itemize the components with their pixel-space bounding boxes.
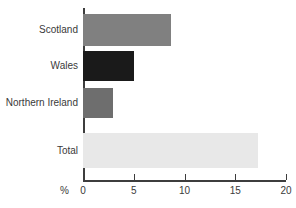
- bar-chart: ScotlandWalesNorthern IrelandTotal 05101…: [0, 0, 296, 208]
- x-tick-mark-10: [185, 174, 186, 180]
- bar-scotland: [83, 14, 171, 46]
- x-axis-line: [83, 180, 286, 182]
- x-tick-mark-5: [134, 174, 135, 180]
- bar-northern-ireland: [83, 88, 113, 118]
- x-tick-label-0: 0: [70, 185, 96, 196]
- x-tick-label-5: 5: [121, 185, 147, 196]
- category-label-scotland: Scotland: [39, 24, 78, 35]
- x-tick-mark-15: [235, 174, 236, 180]
- x-tick-label-15: 15: [222, 185, 248, 196]
- x-axis-unit-label: %: [60, 185, 69, 196]
- category-label-total: Total: [57, 145, 78, 156]
- x-tick-label-20: 20: [273, 185, 296, 196]
- category-label-wales: Wales: [51, 60, 78, 71]
- category-label-northern-ireland: Northern Ireland: [6, 97, 78, 108]
- x-tick-mark-20: [286, 174, 287, 180]
- bar-total: [83, 133, 258, 168]
- x-tick-label-10: 10: [172, 185, 198, 196]
- bar-wales: [83, 51, 134, 81]
- x-tick-mark-0: [83, 174, 84, 180]
